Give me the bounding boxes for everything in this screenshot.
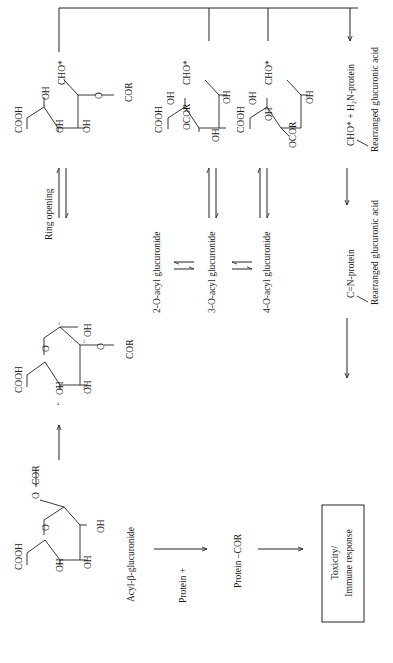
toxicity-label: Toxicity/	[330, 546, 340, 581]
oh-label: OH	[41, 86, 51, 100]
bond-line	[357, 140, 368, 146]
cor-label: COR	[124, 82, 134, 102]
cor-label: COR	[125, 339, 135, 359]
ring-oxygen-label: O	[41, 345, 51, 352]
link-oxygen-label: O	[31, 492, 41, 499]
immune-response-label: Immune response	[344, 529, 354, 596]
bond-line	[357, 296, 368, 302]
cho-label: CHO*	[182, 60, 192, 85]
oh-label: OH	[55, 558, 65, 572]
oh-label: OH	[82, 119, 92, 133]
cho-label: CHO*	[57, 60, 67, 85]
link-oxygen-label: O	[94, 92, 104, 99]
top-bracket-connector	[59, 8, 358, 52]
open-chain-3o-structure: COOH OH OCOR OH OH CHO*	[154, 60, 232, 142]
isomer-ring-opening-arrows	[209, 168, 267, 218]
oh-label: OH	[83, 555, 93, 569]
cooh-label: COOH	[14, 106, 24, 133]
ring-opening-label: Ring opening	[44, 188, 54, 240]
open-chain-2o-structure: COOH OH OH OH CHO* O COR	[14, 60, 134, 133]
ring-opening-equilibrium-arrows	[59, 168, 66, 218]
atom-number: 4	[57, 401, 59, 406]
cooh-label: COOH	[236, 106, 246, 133]
protein-plus-label: Protein +	[178, 568, 188, 603]
imine-protein-label: C=N-protein	[346, 249, 356, 298]
oh-label: OH	[211, 128, 221, 142]
oh-label: OH	[222, 90, 232, 104]
cooh-label: COOH	[14, 366, 24, 393]
link-oxygen-label: O	[96, 343, 106, 350]
ring-oxygen-label: O	[41, 524, 51, 531]
atom-number: 3	[83, 386, 85, 391]
toxicity-immune-response-box: Toxicity/ Immune response	[322, 505, 364, 622]
oh-label: OH	[305, 90, 315, 104]
cho-protein-label: CHO* + H₂N-protein	[346, 64, 356, 146]
open-chain-4o-structure: COOH OH OH OCOR OH CHO*	[236, 60, 315, 148]
ocor-label: OCOR	[182, 103, 192, 130]
cor-label: COR	[31, 465, 41, 485]
rearranged-glucuronic-acid-label: Rearranged glucuronic acid	[370, 200, 380, 305]
oh-label: OH	[264, 107, 274, 121]
rearranged-glucuronic-acid-label: Rearranged glucuronic acid	[370, 47, 380, 152]
atom-number: 2	[83, 339, 85, 344]
oh-label: OH	[166, 91, 176, 105]
cooh-label: COOH	[14, 543, 24, 570]
isomer-3o-label: 3-O-acyl glucuronide	[207, 231, 217, 313]
acyl-beta-glucuronide-label: Acyl-β-glucuronide	[126, 527, 136, 602]
isomer-4o-label: 4-O-acyl glucuronide	[262, 231, 272, 313]
cho-label: CHO*	[264, 60, 274, 85]
pathway-diagram: COOH OH OH OH O O COR Acyl-β-glucuronide…	[0, 0, 393, 663]
oh-label: OH	[55, 119, 65, 133]
protein-cor-label: Protein –COR	[233, 533, 243, 588]
oh-label: OH	[83, 323, 93, 337]
oh-label: OH	[248, 91, 258, 105]
oh-label: OH	[96, 519, 106, 533]
ocor-label: OCOR	[288, 121, 298, 148]
isomer-2o-label: 2-O-acyl glucuronide	[152, 231, 162, 313]
acyl-beta-glucuronide-structure: COOH OH OH OH O O COR	[14, 465, 106, 572]
atom-number: 1	[58, 321, 60, 326]
cooh-label: COOH	[154, 106, 164, 133]
glucuronide-ring-structure: COOH OH OH OH O O COR 1 2 3 4	[14, 321, 135, 406]
oh-label: OH	[55, 381, 65, 395]
